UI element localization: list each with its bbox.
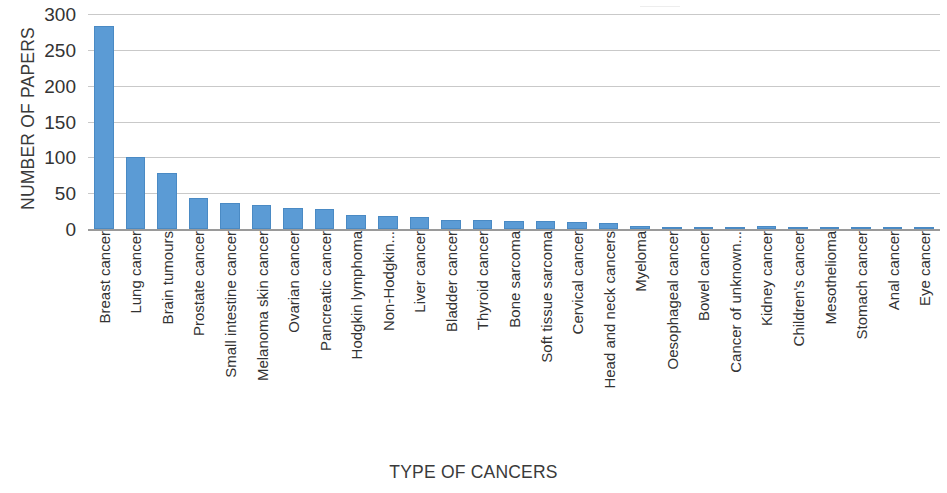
bars-layer [88,14,940,229]
bar [189,198,209,229]
bar [694,227,714,229]
bar [914,227,934,229]
y-tick-label: 150 [16,113,76,132]
x-tick: Bladder cancer [435,231,467,453]
x-tick: Cancer of unknown... [719,231,751,453]
x-axis-title: TYPE OF CANCERS [0,462,947,483]
bar [757,226,777,229]
x-tick: Pancreatic cancer [309,231,341,453]
bar [315,209,335,229]
x-tick-label: Breast cancer [96,231,111,324]
x-tick-label: Thyroid cancer [475,231,490,330]
x-tick-label: Cancer of unknown... [727,231,742,373]
x-tick-label: Brain tumours [159,231,174,324]
bar [820,227,840,229]
x-tick: Hodgkin lymphoma [340,231,372,453]
x-tick: Small intestine cancer [214,231,246,453]
x-tick-label: Cervical cancer [570,231,585,334]
x-tick-label: Mesothelioma [822,231,837,324]
x-tick: Bowel cancer [688,231,720,453]
bar [126,157,146,229]
bar [504,221,524,229]
x-tick: Ovarian cancer [277,231,309,453]
bar [220,203,240,229]
x-tick: Mesothelioma [814,231,846,453]
bar [94,26,114,229]
plot-area: 050100150200250300 [88,14,940,229]
bar [378,216,398,229]
x-tick-label: Oesophageal cancer [664,231,679,369]
x-tick: Breast cancer [88,231,120,453]
y-tick-label: 250 [16,41,76,60]
bar [157,173,177,229]
x-tick-label: Bowel cancer [696,231,711,321]
bar [567,222,587,229]
x-tick: Eye cancer [908,231,940,453]
x-tick-label: Prostate cancer [191,231,206,336]
bar [662,227,682,229]
x-tick-label: Eye cancer [917,231,932,306]
bar [630,226,650,229]
x-tick: Myeloma [624,231,656,453]
bar [473,220,493,229]
x-tick-label: Non-Hodgkin... [380,231,395,331]
x-tick-label: Hodgkin lymphoma [349,231,364,359]
x-tick-label: Soft tissue sarcoma [538,231,553,363]
bar [599,223,619,229]
x-tick: Kidney cancer [751,231,783,453]
bar [283,208,303,230]
x-tick: Brain tumours [151,231,183,453]
x-tick: Anal cancer [877,231,909,453]
x-tick: Soft tissue sarcoma [530,231,562,453]
x-tick-label: Liver cancer [412,231,427,313]
x-tick-labels: Breast cancerLung cancerBrain tumoursPro… [88,231,940,453]
bar [410,217,430,229]
x-tick-label: Head and neck cancers [601,231,616,389]
bar [252,205,272,229]
x-tick-label: Small intestine cancer [222,231,237,378]
x-tick-label: Children's cancer [790,231,805,346]
x-tick-label: Bladder cancer [443,231,458,332]
x-tick-label: Anal cancer [885,231,900,310]
y-tick-label: 200 [16,77,76,96]
x-tick: Prostate cancer [183,231,215,453]
bar-chart: NUMBER OF PAPERS 050100150200250300 Brea… [0,0,947,493]
x-tick: Bone sarcoma [498,231,530,453]
top-artifact-line [640,6,680,7]
x-tick: Oesophageal cancer [656,231,688,453]
x-tick-label: Bone sarcoma [506,231,521,328]
bar [441,220,461,229]
x-tick: Head and neck cancers [593,231,625,453]
x-tick-label: Kidney cancer [759,231,774,326]
x-tick-label: Melanoma skin cancer [254,231,269,381]
x-tick-label: Myeloma [633,231,648,292]
x-tick-label: Ovarian cancer [286,231,301,333]
x-tick-label: Pancreatic cancer [317,231,332,351]
y-tick-label: 50 [16,184,76,203]
bar [883,227,903,229]
x-tick: Cervical cancer [561,231,593,453]
bar [536,221,556,229]
x-tick-label: Stomach cancer [854,231,869,339]
y-tick-label: 300 [16,5,76,24]
x-tick-label: Lung cancer [128,231,143,314]
bar [346,215,366,229]
x-tick: Liver cancer [404,231,436,453]
x-tick: Melanoma skin cancer [246,231,278,453]
x-tick: Lung cancer [120,231,152,453]
bar [788,227,808,229]
x-tick: Children's cancer [782,231,814,453]
bar [725,227,745,229]
x-tick: Stomach cancer [845,231,877,453]
bar [851,227,871,229]
y-tick-label: 100 [16,148,76,167]
x-tick: Non-Hodgkin... [372,231,404,453]
x-tick: Thyroid cancer [467,231,499,453]
y-tick-label: 0 [16,220,76,239]
